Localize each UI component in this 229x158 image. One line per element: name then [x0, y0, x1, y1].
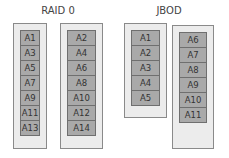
data-block: A12	[67, 105, 96, 121]
raid0-disk-1: A1A3A5A7A9A11A13	[13, 23, 47, 149]
data-block: A4	[67, 45, 96, 61]
data-block: A1	[131, 30, 160, 46]
raid0-disk-2-blocks: A2A4A6A8A10A12A14	[67, 30, 96, 136]
jbod-disk-2-blocks: A6A7A8A9A10A11	[179, 32, 207, 123]
data-block: A7	[20, 75, 40, 91]
data-block: A2	[67, 30, 96, 46]
data-block: A9	[179, 77, 207, 93]
data-block: A10	[67, 90, 96, 106]
data-block: A6	[179, 32, 207, 48]
jbod-title: JBOD	[124, 5, 214, 16]
raid0-disk-2: A2A4A6A8A10A12A14	[60, 23, 103, 149]
data-block: A3	[20, 45, 40, 61]
raid0-title: RAID 0	[13, 5, 103, 16]
data-block: A3	[131, 60, 160, 76]
data-block: A8	[67, 75, 96, 91]
raid0-disk-1-blocks: A1A3A5A7A9A11A13	[20, 30, 40, 136]
data-block: A5	[131, 90, 160, 106]
data-block: A8	[179, 62, 207, 78]
data-block: A6	[67, 60, 96, 76]
jbod-disk-1: A1A2A3A4A5	[124, 23, 167, 118]
data-block: A14	[67, 120, 96, 136]
data-block: A7	[179, 47, 207, 63]
data-block: A2	[131, 45, 160, 61]
jbod-disk-1-blocks: A1A2A3A4A5	[131, 30, 160, 106]
data-block: A9	[20, 90, 40, 106]
data-block: A5	[20, 60, 40, 76]
data-block: A4	[131, 75, 160, 91]
jbod-disk-2: A6A7A8A9A10A11	[172, 25, 214, 149]
data-block: A11	[179, 107, 207, 123]
data-block: A13	[20, 120, 40, 136]
data-block: A1	[20, 30, 40, 46]
data-block: A11	[20, 105, 40, 121]
data-block: A10	[179, 92, 207, 108]
